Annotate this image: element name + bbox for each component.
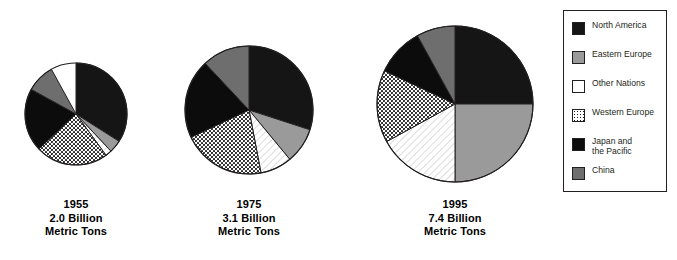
- pie-chart-1995: [375, 24, 535, 184]
- legend-swatch-icon: [572, 109, 585, 122]
- caption-amount-1955: 2.0 Billion: [6, 212, 146, 226]
- legend-swatch-icon: [572, 138, 585, 151]
- pie-caption-1995: 1995 7.4 Billion Metric Tons: [385, 198, 525, 239]
- legend-swatch-icon: [572, 51, 585, 64]
- legend-item-label: Other Nations: [592, 77, 645, 88]
- legend-item-other-nations[interactable]: Other Nations: [572, 77, 664, 106]
- legend-swatch-icon: [572, 22, 585, 35]
- pie-chart-1955: [23, 61, 129, 167]
- caption-amount-1995: 7.4 Billion: [385, 212, 525, 226]
- pie-svg-1995: [375, 24, 535, 184]
- legend-item-label: Eastern Europe: [592, 48, 652, 59]
- caption-amount-1975: 3.1 Billion: [179, 212, 319, 226]
- legend-item-western-europe[interactable]: Western Europe: [572, 106, 664, 135]
- legend-swatch-icon: [572, 80, 585, 93]
- caption-year-1975: 1975: [179, 198, 319, 212]
- pie-slice-north-america[interactable]: [455, 26, 533, 104]
- legend-swatch-icon: [572, 167, 585, 180]
- legend-list: North AmericaEastern EuropeOther Nations…: [572, 19, 664, 193]
- legend-item-japan-and-the-pacific[interactable]: Japan and the Pacific: [572, 135, 664, 164]
- caption-unit-1995: Metric Tons: [385, 225, 525, 239]
- caption-unit-1955: Metric Tons: [6, 225, 146, 239]
- legend-item-label: Western Europe: [592, 106, 654, 117]
- legend-item-label: China: [592, 164, 614, 175]
- caption-year-1955: 1955: [6, 198, 146, 212]
- chart-legend: North AmericaEastern EuropeOther Nations…: [563, 10, 667, 192]
- caption-year-1995: 1995: [385, 198, 525, 212]
- legend-item-eastern-europe[interactable]: Eastern Europe: [572, 48, 664, 77]
- caption-unit-1975: Metric Tons: [179, 225, 319, 239]
- chart-canvas: 1955 2.0 Billion Metric Tons 1975 3.1 Bi…: [0, 0, 677, 260]
- legend-item-label: North America: [592, 19, 646, 30]
- legend-item-label: Japan and the Pacific: [592, 135, 632, 157]
- pie-svg-1955: [23, 61, 129, 167]
- pie-caption-1975: 1975 3.1 Billion Metric Tons: [179, 198, 319, 239]
- legend-item-north-america[interactable]: North America: [572, 19, 664, 48]
- pie-svg-1975: [183, 44, 315, 176]
- pie-chart-1975: [183, 44, 315, 176]
- legend-item-china[interactable]: China: [572, 164, 664, 193]
- pie-slice-eastern-europe[interactable]: [455, 104, 533, 182]
- pie-caption-1955: 1955 2.0 Billion Metric Tons: [6, 198, 146, 239]
